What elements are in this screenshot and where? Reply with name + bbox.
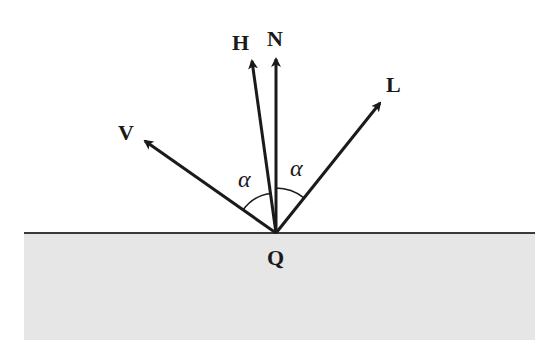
label-v: V [118, 120, 134, 145]
label-alpha-right: α [290, 155, 303, 181]
label-q: Q [267, 245, 284, 270]
label-n: N [267, 26, 283, 51]
angle-arc-left [243, 193, 271, 210]
label-l: L [386, 72, 401, 97]
angle-arc-right [276, 188, 304, 198]
label-h: H [232, 30, 249, 55]
label-alpha-left: α [238, 166, 251, 192]
vector-h-arrow [252, 61, 276, 233]
vector-v-arrow [145, 141, 276, 233]
reflection-diagram: V H N L Q α α [0, 0, 557, 353]
